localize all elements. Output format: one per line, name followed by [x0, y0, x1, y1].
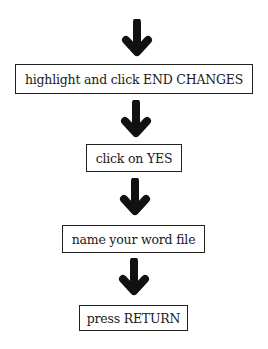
down-arrow-icon: [118, 258, 150, 296]
step-label: press RETURN: [87, 311, 181, 326]
step-box-end-changes: highlight and click END CHANGES: [15, 64, 253, 94]
step-box-click-yes: click on YES: [86, 144, 182, 172]
step-box-press-return: press RETURN: [79, 305, 188, 331]
down-arrow-icon: [119, 178, 151, 216]
step-box-name-file: name your word file: [62, 225, 205, 253]
down-arrow-icon: [121, 19, 153, 57]
step-label: highlight and click END CHANGES: [25, 72, 243, 87]
down-arrow-icon: [120, 100, 152, 138]
step-label: click on YES: [96, 151, 173, 166]
step-label: name your word file: [72, 232, 196, 247]
